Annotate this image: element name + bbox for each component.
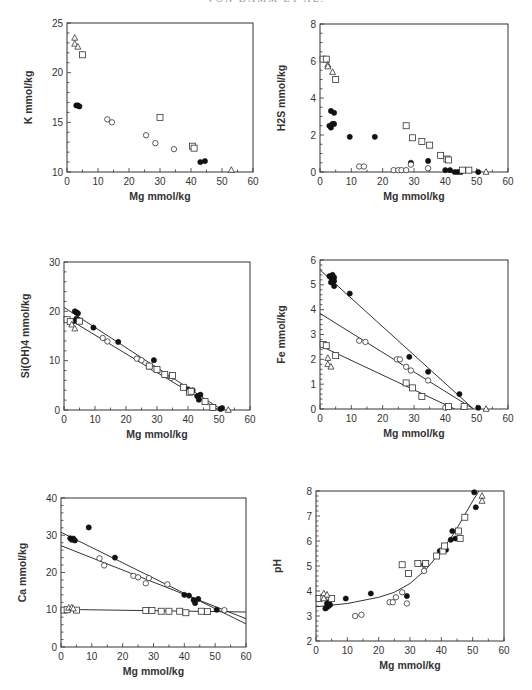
y-tick-label: 40 <box>46 493 58 504</box>
chart-panel-h2s: 010203040506002468Mg mmol/kgH2S mmol/kg <box>275 19 514 203</box>
data-point-filled-circle <box>198 392 203 397</box>
data-point-open-circle <box>393 595 398 600</box>
data-point-filled-circle <box>372 134 377 139</box>
data-point-filled-circle <box>332 121 337 126</box>
x-tick-label: 50 <box>471 413 483 424</box>
y-axis-label: Si(OH)4 mmol/kg <box>19 294 31 379</box>
data-point-filled-circle <box>72 538 77 543</box>
y-tick-label: 4 <box>306 586 312 597</box>
data-point-open-circle <box>363 339 368 344</box>
data-point-open-square <box>154 367 160 373</box>
data-point-open-circle <box>403 167 408 172</box>
data-point-open-square <box>333 77 339 83</box>
x-tick-label: 20 <box>120 414 132 425</box>
data-point-open-square <box>466 167 472 173</box>
data-point-open-square <box>462 514 468 520</box>
y-axis-label: Ca mmol/kg <box>16 543 28 603</box>
data-point-filled-circle <box>473 505 478 510</box>
x-tick-label: 40 <box>179 651 191 662</box>
data-point-filled-circle <box>186 593 191 598</box>
y-tick-label: 0 <box>54 405 60 416</box>
data-point-open-circle <box>425 166 430 171</box>
data-point-open-circle <box>165 582 170 587</box>
data-point-open-square <box>409 385 415 391</box>
x-tick-label: 0 <box>317 413 323 424</box>
y-tick-label: 10 <box>46 604 58 615</box>
data-point-open-circle <box>146 575 151 580</box>
data-point-filled-circle <box>112 555 117 560</box>
figure: 010203040506010152025Mg mmol/kgK mmol/kg… <box>0 0 532 690</box>
y-tick-label: 20 <box>52 67 64 78</box>
data-point-open-circle <box>408 368 413 373</box>
y-tick-label: 10 <box>52 167 64 178</box>
y-tick-label: 2 <box>310 130 316 141</box>
trend-line <box>316 491 479 607</box>
data-point-open-square <box>146 363 152 369</box>
data-point-open-circle <box>359 612 364 617</box>
data-point-filled-circle <box>332 279 337 284</box>
data-point-filled-circle <box>450 528 455 533</box>
data-point-open-square <box>441 543 447 549</box>
data-point-open-circle <box>397 357 402 362</box>
y-tick-label: 30 <box>46 530 58 541</box>
y-tick-label: 6 <box>306 536 312 547</box>
data-point-open-square <box>405 571 411 577</box>
y-tick-label: 5 <box>306 561 312 572</box>
x-tick-label: 40 <box>436 645 448 656</box>
data-point-open-square <box>457 536 463 542</box>
x-tick-label: 20 <box>377 176 389 187</box>
y-tick-label: 3 <box>310 329 316 340</box>
data-point-filled-circle <box>347 291 352 296</box>
data-point-open-square <box>333 353 339 359</box>
chart-panel-fe: 01020304050600123456Mg mmol/kgFe mmol/kg <box>275 255 514 440</box>
data-point-open-square <box>427 142 433 148</box>
x-axis-label: Mg mmol/kg <box>129 190 190 202</box>
data-point-open-circle <box>97 556 102 561</box>
data-point-open-circle <box>222 607 227 612</box>
x-tick-label: 0 <box>313 645 319 656</box>
data-point-open-triangle <box>228 167 234 173</box>
chart-panel-sioh4: 01020304050600102030Mg mmol/kgSi(OH)4 mm… <box>19 257 256 441</box>
y-tick-label: 2 <box>306 636 312 647</box>
y-axis-label: Fe mmol/kg <box>275 305 287 363</box>
data-point-filled-circle <box>196 596 201 601</box>
data-point-filled-circle <box>472 490 477 495</box>
data-point-open-circle <box>399 590 404 595</box>
y-tick-label: 5 <box>310 279 316 290</box>
data-point-open-square <box>419 394 425 400</box>
y-tick-label: 25 <box>52 18 64 29</box>
x-tick-label: 60 <box>498 645 510 656</box>
y-tick-label: 4 <box>310 93 316 104</box>
x-tick-label: 60 <box>247 176 259 187</box>
y-tick-label: 30 <box>49 257 61 268</box>
x-tick-label: 30 <box>151 414 163 425</box>
x-tick-label: 50 <box>213 414 225 425</box>
x-tick-label: 0 <box>64 176 70 187</box>
data-point-open-square <box>415 561 421 567</box>
data-point-filled-circle <box>476 169 481 174</box>
data-point-open-circle <box>171 146 176 151</box>
data-point-open-square <box>191 145 197 151</box>
x-tick-label: 30 <box>408 413 420 424</box>
x-tick-label: 10 <box>346 413 358 424</box>
y-tick-label: 7 <box>306 511 312 522</box>
data-point-open-square <box>423 561 429 567</box>
data-point-open-square <box>323 56 329 62</box>
y-tick-label: 0 <box>310 404 316 415</box>
chart-panel-k: 010203040506010152025Mg mmol/kgK mmol/kg <box>22 18 259 203</box>
x-tick-label: 10 <box>346 176 358 187</box>
x-axis-label: Mg mmol/kg <box>379 659 440 671</box>
data-point-open-square <box>204 609 210 615</box>
x-tick-label: 50 <box>471 176 483 187</box>
data-point-filled-circle <box>75 311 80 316</box>
data-point-open-square <box>403 123 409 129</box>
x-axis-label: Mg mmol/kg <box>123 665 184 677</box>
x-tick-label: 10 <box>92 176 104 187</box>
data-point-open-circle <box>153 140 158 145</box>
data-point-open-triangle <box>330 69 336 75</box>
data-point-open-circle <box>404 601 409 606</box>
data-point-filled-circle <box>332 283 337 288</box>
data-point-open-square <box>143 607 149 613</box>
data-point-open-square <box>188 388 194 394</box>
chart-panel-ca: 0102030405060010203040Mg mmol/kgCa mmol/… <box>16 493 252 678</box>
